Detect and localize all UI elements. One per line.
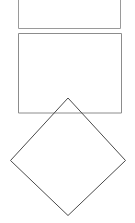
- figure-canvas: [0, 0, 135, 223]
- rectangle-middle-shape: [19, 34, 122, 114]
- diamond-square-shape: [11, 98, 126, 216]
- shapes-svg: [0, 0, 135, 223]
- rectangle-top-shape: [19, 0, 121, 29]
